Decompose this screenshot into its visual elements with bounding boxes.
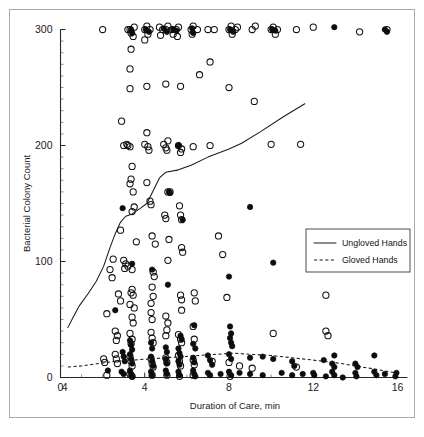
data-point-filled [247,204,252,209]
data-point-filled [340,375,345,380]
data-point-filled [332,24,337,29]
data-point-filled [164,371,169,376]
data-point-open [117,298,123,304]
data-point-open [127,66,133,72]
data-point-open [165,257,171,263]
data-points-group [100,23,400,380]
figure-root: 0100200300 04481216 Ungloved HandsGloved… [0,0,424,437]
data-point-filled [227,324,232,329]
data-point-filled [354,374,359,379]
data-point-open [148,300,154,306]
data-point-filled [228,372,233,377]
data-point-filled [177,372,182,377]
data-point-filled [164,361,169,366]
data-point-filled [207,372,212,377]
data-point-open [251,98,257,104]
data-point-open [164,327,170,333]
data-point-open [226,84,232,90]
data-point-open [165,138,171,144]
legend-group: Ungloved HandsGloved Hands [306,229,410,272]
x-tick-label: 12 [307,381,319,393]
axis-lines [61,30,408,378]
legend-label: Gloved Hands [342,255,398,265]
data-point-open [148,329,154,335]
data-point-filled [164,349,169,354]
data-point-open [163,313,169,319]
data-point-open [129,163,135,169]
data-point-filled [121,371,126,376]
data-point-open [205,26,211,32]
data-point-filled [129,261,134,266]
legend-box [306,229,410,272]
data-point-open [104,311,110,317]
data-point-filled [129,361,134,366]
data-point-open [268,141,274,147]
data-point-open [164,147,170,153]
data-point-filled [374,372,379,377]
data-point-open [270,330,276,336]
data-point-filled [177,362,182,367]
data-point-open [131,305,137,311]
data-point-open [148,202,154,208]
data-point-open [149,316,155,322]
x-axis-title: Duration of Care, min [190,400,280,411]
data-point-open [149,233,155,239]
data-point-open [157,32,163,38]
data-point-filled [382,371,387,376]
data-point-filled [174,28,179,33]
data-point-open [177,149,183,155]
data-point-open [190,144,196,150]
data-point-open [192,298,198,304]
data-point-filled [192,360,197,365]
data-point-filled [122,359,127,364]
series-ungloved-hands [100,23,391,380]
data-point-filled [149,267,154,272]
scatter-plot: 0100200300 04481216 Ungloved HandsGloved… [0,0,424,437]
data-point-filled [209,362,214,367]
data-point-filled [129,374,134,379]
data-point-open [323,292,329,298]
data-point-filled [271,260,276,265]
data-point-open [163,81,169,87]
data-point-filled [271,356,276,361]
data-point-open [179,307,185,313]
data-point-filled [149,372,154,377]
data-point-open [148,309,154,315]
data-point-open [163,333,169,339]
data-point-open [236,363,242,369]
data-point-open [149,284,155,290]
data-point-open [133,239,139,245]
x-tick-label: 4 [62,381,68,393]
y-tick-label: 200 [35,139,53,151]
data-point-filled [129,30,134,35]
trend-line-solid [68,104,305,328]
data-point-filled [231,29,236,34]
x-tick-label: 16 [392,381,404,393]
data-point-filled [323,374,328,379]
data-point-filled [394,370,399,375]
legend-label: Ungloved Hands [342,238,408,248]
data-point-filled [218,371,223,376]
data-point-filled [332,353,337,358]
data-point-filled [229,343,234,348]
data-point-open [129,267,135,273]
data-point-open [196,72,202,78]
data-point-open [127,86,133,92]
data-point-open [110,256,116,262]
y-axis-title: Bacterial Colony Count [21,155,32,253]
y-tick-label: 0 [47,371,53,383]
data-point-open [356,29,362,35]
data-point-open [163,215,169,221]
data-point-filled [165,282,170,287]
data-point-open [224,294,230,300]
data-point-filled [384,29,389,34]
data-point-open [146,147,152,153]
data-point-open [142,37,148,43]
data-point-filled [228,356,233,361]
data-point-filled [149,346,154,351]
data-point-filled [148,340,153,345]
data-point-open [107,267,113,273]
data-point-filled [279,370,284,375]
data-point-filled [120,205,125,210]
x-tick-label: 8 [226,381,232,393]
